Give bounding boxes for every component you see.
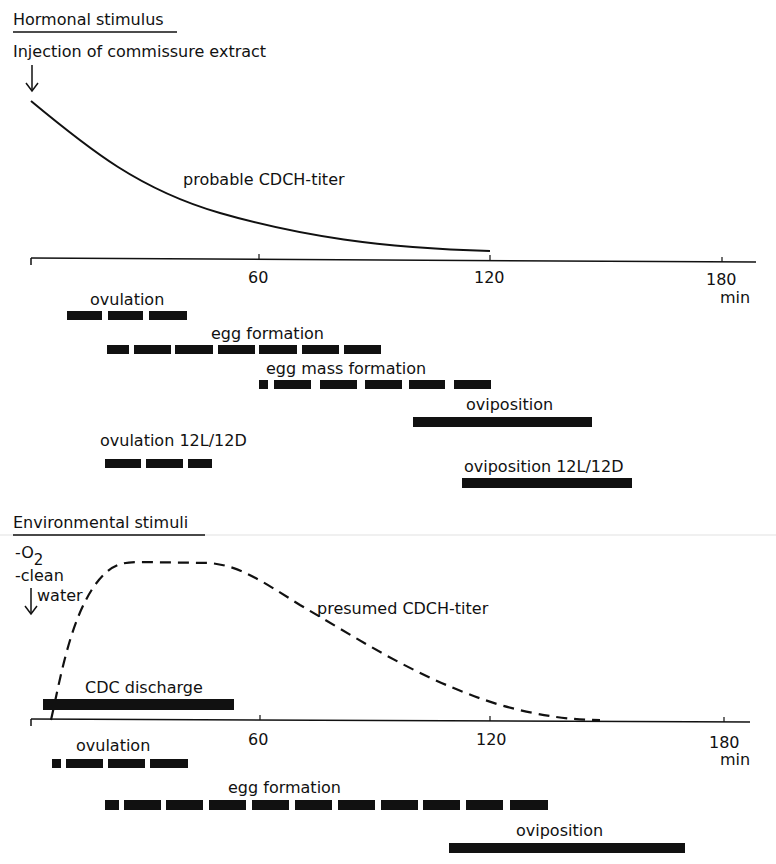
- bar-oviposition: [449, 843, 685, 853]
- bar-cdc-discharge: [43, 699, 234, 710]
- bar-label-ovulation-12l12d: ovulation 12L/12D: [100, 431, 247, 450]
- bar-label-oviposition-12l12d: oviposition 12L/12D: [464, 457, 624, 476]
- down-arrow-icon: [25, 588, 37, 614]
- bar-ovulation: [52, 759, 188, 768]
- tick-180: 180: [706, 270, 737, 289]
- panel-title-environmental: Environmental stimuli: [13, 513, 188, 532]
- tick-120: 120: [476, 730, 507, 749]
- bar-label-cdc-discharge: CDC discharge: [85, 678, 203, 697]
- bar-egg-formation: [105, 800, 548, 810]
- bar-label-egg-formation: egg formation: [228, 778, 341, 797]
- bar-label-oviposition: oviposition: [466, 395, 553, 414]
- panel-title-hormonal: Hormonal stimulus: [13, 10, 164, 29]
- bar-label-oviposition: oviposition: [516, 821, 603, 840]
- figure: Hormonal stimulus Injection of commissur…: [0, 0, 776, 864]
- bar-egg-mass-formation: [259, 380, 491, 389]
- bar-label-egg-formation: egg formation: [211, 324, 324, 343]
- bar-oviposition: [413, 417, 592, 427]
- bar-label-ovulation: ovulation: [90, 290, 164, 309]
- bar-ovulation-12l12d: [105, 459, 212, 468]
- down-arrow-icon: [26, 65, 38, 91]
- injection-annotation: Injection of commissure extract: [13, 42, 266, 61]
- curve-label: probable CDCH-titer: [183, 170, 345, 189]
- bar-label-egg-mass: egg mass formation: [266, 359, 426, 378]
- bar-label-ovulation: ovulation: [76, 736, 150, 755]
- environmental-panel: Environmental stimuli -O2 -clean water p…: [13, 513, 750, 853]
- curve-label: presumed CDCH-titer: [317, 599, 489, 618]
- water-label: water: [37, 586, 83, 605]
- bar-oviposition-12l12d: [462, 478, 632, 488]
- tick-120: 120: [474, 268, 505, 287]
- tick-60: 60: [248, 730, 268, 749]
- hormonal-panel: Hormonal stimulus Injection of commissur…: [13, 10, 756, 488]
- clean-label: -clean: [15, 566, 64, 585]
- axis-unit: min: [720, 750, 750, 769]
- tick-60: 60: [248, 268, 268, 287]
- bar-egg-formation: [107, 345, 381, 354]
- bar-ovulation: [67, 311, 187, 320]
- axis-unit: min: [720, 288, 750, 307]
